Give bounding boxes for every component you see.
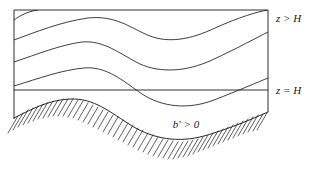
label-z-greater-than-H: z > H xyxy=(275,12,302,24)
label-buoyancy-positive: b' > 0 xyxy=(173,118,200,130)
figure-container: z > H z = H b' > 0 xyxy=(0,0,318,170)
figure-background xyxy=(0,0,318,170)
flow-topography-diagram: z > H z = H b' > 0 xyxy=(0,0,318,170)
label-z-equals-H: z = H xyxy=(275,84,302,96)
